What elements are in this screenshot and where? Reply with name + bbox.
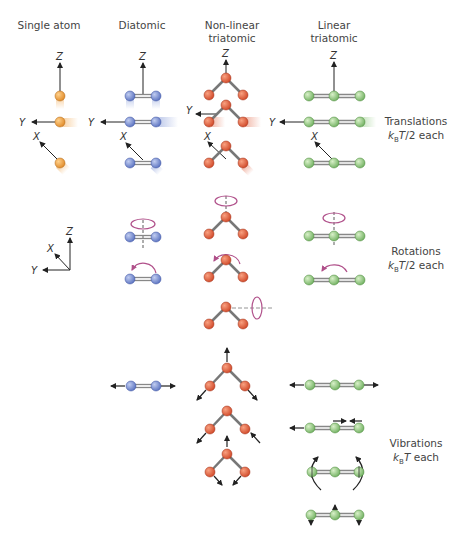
svg-text:Y: Y	[19, 117, 26, 128]
molecule-diagram: Z Y X Z Y X Z	[0, 0, 458, 545]
vibrations-linear	[290, 380, 378, 525]
svg-text:Z: Z	[65, 226, 74, 237]
translations-nonlinear: Z Y X	[186, 48, 261, 176]
svg-text:Y: Y	[88, 117, 95, 128]
svg-text:Z: Z	[138, 51, 147, 62]
translations-diatomic: Z Y X	[88, 51, 178, 175]
rotations-linear	[304, 212, 365, 285]
svg-text:Y: Y	[269, 117, 276, 128]
translations-linear: Z Y X	[269, 50, 376, 168]
translations-single-atom: Z Y X	[19, 51, 78, 175]
svg-text:X: X	[32, 131, 41, 142]
svg-text:Z: Z	[221, 48, 230, 59]
svg-text:Y: Y	[31, 265, 38, 276]
rotation-axes-legend: Z Y X	[31, 226, 74, 276]
svg-text:Z: Z	[55, 51, 64, 62]
svg-text:X: X	[119, 131, 128, 142]
vibrations-nonlinear	[197, 348, 260, 485]
svg-text:X: X	[203, 131, 212, 142]
svg-text:X: X	[46, 243, 55, 254]
svg-text:Z: Z	[329, 50, 338, 61]
vibrations-diatomic	[111, 381, 175, 391]
svg-text:Y: Y	[186, 105, 193, 116]
rotations-diatomic	[125, 219, 161, 284]
svg-text:X: X	[310, 131, 319, 142]
rotations-nonlinear	[204, 196, 272, 329]
